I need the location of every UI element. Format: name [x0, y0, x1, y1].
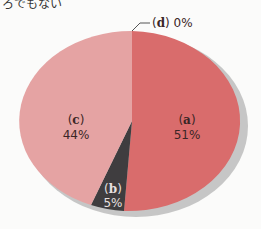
slice-d-callout-line: [132, 23, 150, 31]
slice-c-key: (c): [68, 113, 85, 127]
slice-d-label: (d) 0%: [152, 16, 193, 30]
slice-a-value: 51%: [174, 128, 201, 142]
slice-a-key: (a): [178, 113, 195, 127]
pie-chart: (d) 0% (a) 51% (c) 44% (b) 5%: [0, 0, 261, 229]
slice-b-key: (b): [104, 182, 122, 196]
slice-c-value: 44%: [63, 128, 90, 142]
slice-b-value: 5%: [103, 196, 122, 210]
